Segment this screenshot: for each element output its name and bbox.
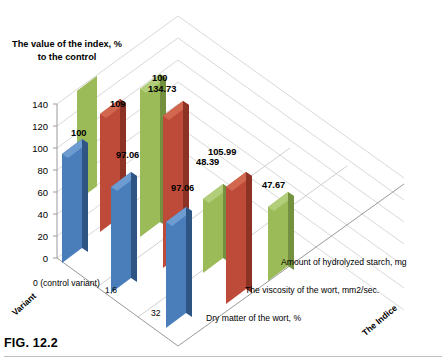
bar-variant2-starch	[140, 74, 166, 237]
x-category-label-1-6: 1,6	[105, 285, 117, 295]
z-series-label-starch: Amount of hydrolyzed starch, mg	[281, 257, 407, 267]
chart-3d-clustered-column: The value of the index, % to the control…	[0, 0, 446, 364]
data-label-variant1-dry-matter: 100	[71, 128, 87, 138]
bar-variant3-starch-right	[268, 192, 294, 281]
chart-bars-layer	[0, 0, 446, 364]
data-label-variant2-dry-matter: 97.06	[116, 150, 139, 160]
data-label-variant2-starch: 48.39	[196, 157, 219, 167]
data-label-variant1-starch: 100	[152, 73, 168, 83]
bar-variant2-dry-matter	[111, 172, 137, 293]
z-series-label-dry-matter: Dry matter of the wort, %	[206, 313, 301, 323]
bar-variant3-starch	[203, 184, 229, 273]
data-label-variant3-starch: 47.67	[262, 180, 285, 190]
z-series-label-viscosity: The viscosity of the wort, mm2/sec.	[245, 285, 379, 295]
caption-divider	[4, 356, 442, 357]
data-label-variant2-viscosity: 134.73	[148, 84, 176, 94]
data-label-variant1-viscosity: 109	[110, 99, 126, 109]
x-category-label-control: 0 (control variant)	[33, 278, 100, 288]
bar-variant1-dry-matter	[62, 139, 88, 263]
data-label-variant3-dry-matter: 97.06	[171, 183, 194, 193]
bar-variant3-dry-matter	[166, 207, 192, 328]
data-label-variant3-viscosity: 105.99	[208, 147, 236, 157]
x-category-label-32: 32	[151, 308, 161, 318]
figure-caption: FIG. 12.2	[4, 336, 58, 350]
